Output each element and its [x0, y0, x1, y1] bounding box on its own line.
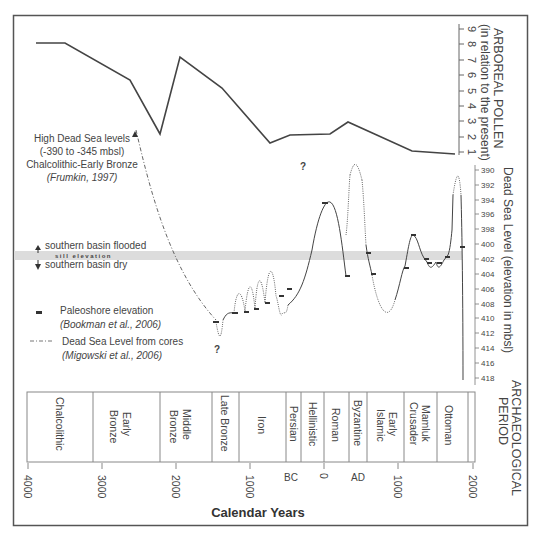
lake-level-axis: [475, 165, 479, 385]
pollen-tick-labels: 9 8 7 6 5 4 3 2 1: [466, 26, 478, 155]
high-levels-annotation: High Dead Sea levels (-390 to -345 mbsl)…: [26, 133, 138, 183]
svg-text:412: 412: [481, 329, 495, 338]
ad-label: AD: [351, 472, 365, 483]
chart-frame: [14, 16, 528, 526]
svg-text:390: 390: [481, 166, 495, 175]
svg-text:2: 2: [466, 134, 478, 140]
lake-level-dotted-segments: [216, 164, 461, 336]
svg-text:(Frumkin, 1997): (Frumkin, 1997): [47, 172, 118, 183]
paleoshore-markers: [213, 202, 465, 323]
svg-text:7: 7: [466, 57, 478, 63]
svg-text:418: 418: [481, 374, 495, 383]
svg-text:Chalcolithic-Early Bronze: Chalcolithic-Early Bronze: [26, 159, 138, 170]
svg-text:(Migowski et al., 2006): (Migowski et al., 2006): [62, 350, 162, 361]
svg-text:3000: 3000: [96, 475, 108, 499]
svg-text:396: 396: [481, 210, 495, 219]
svg-text:8: 8: [466, 41, 478, 47]
svg-text:3: 3: [466, 118, 478, 124]
svg-text:402: 402: [481, 255, 495, 264]
svg-text:9: 9: [466, 26, 478, 32]
svg-text:4000: 4000: [22, 475, 34, 499]
svg-text:406: 406: [481, 285, 495, 294]
svg-text:404: 404: [481, 270, 495, 279]
bc-label: BC: [284, 472, 298, 483]
period-middle-bronze-2: Bronze: [168, 410, 180, 443]
period-axis-title-2: PERIOD: [496, 397, 510, 445]
svg-text:400: 400: [481, 240, 495, 249]
pollen-axis: [459, 24, 464, 155]
paleoshore-legend-swatch: [36, 311, 42, 314]
period-middle-bronze-1: Middle: [181, 409, 193, 440]
period-early-bronze-2: Bronze: [108, 410, 120, 443]
basin-dry-label: southern basin dry: [45, 259, 127, 270]
chart-canvas: sill elevation 9 8 7 6 5 4 3 2 1 ARBOREA…: [0, 0, 541, 539]
svg-text:4: 4: [466, 103, 478, 109]
period-persian: Persian: [288, 406, 300, 442]
question-mark-top: ?: [300, 161, 306, 172]
period-table: [27, 392, 475, 462]
svg-text:Dead Sea Level from cores: Dead Sea Level from cores: [62, 336, 183, 347]
period-chalcolithic: Chalcolithic: [54, 397, 66, 451]
svg-text:6: 6: [466, 72, 478, 78]
period-labels: Chalcolithic Early Bronze Middle Bronze …: [54, 395, 455, 452]
svg-text:394: 394: [481, 196, 495, 205]
period-early-bronze-1: Early: [121, 412, 133, 437]
svg-text:2000: 2000: [170, 475, 182, 499]
arrow-up-icon: [132, 131, 138, 137]
svg-text:2000: 2000: [467, 475, 479, 499]
svg-text:5: 5: [466, 88, 478, 94]
svg-text:408: 408: [481, 300, 495, 309]
basin-flooded-label: southern basin flooded: [45, 240, 146, 251]
period-mamluk: Mamluk: [420, 405, 432, 443]
period-byzantine: Byzantine: [352, 400, 364, 446]
svg-text:398: 398: [481, 225, 495, 234]
arrow-down-icon: [35, 264, 41, 270]
core-level-dashed-line: [136, 130, 216, 320]
period-roman: Roman: [330, 408, 342, 442]
period-ottoman: Ottoman: [443, 405, 455, 445]
pollen-axis-title: ARBOREAL POLLEN: [491, 28, 505, 148]
legend: Paleoshore elevation (Bookman et al., 20…: [30, 305, 183, 361]
period-axis-title-1: ARCHAEOLOGICAL: [509, 380, 523, 496]
period-late-bronze: Late Bronze: [219, 395, 231, 452]
lake-level-tick-labels: 390 392 394 396 398 400 402 404 406 408 …: [481, 166, 495, 383]
period-early-islamic-2: Islamic: [375, 409, 387, 442]
svg-text:1000: 1000: [244, 475, 256, 499]
svg-text:1: 1: [466, 149, 478, 155]
question-mark-bottom: ?: [214, 344, 220, 355]
lake-level-axis-title: Dead Sea Level (elevation in mbsl): [501, 167, 515, 353]
svg-text:High Dead Sea levels: High Dead Sea levels: [34, 133, 130, 144]
pollen-axis-subtitle: (in relation to the present): [478, 24, 492, 161]
x-axis-tick-labels: 4000 3000 2000 1000 0 1000 2000: [22, 473, 479, 499]
period-hellinistic: Hellinistic: [307, 402, 319, 446]
svg-text:0: 0: [318, 473, 330, 479]
svg-text:414: 414: [481, 344, 495, 353]
svg-text:392: 392: [481, 181, 495, 190]
period-early-islamic-1: Early: [387, 412, 399, 437]
svg-text:(Bookman et al., 2006): (Bookman et al., 2006): [60, 319, 161, 330]
lake-level-line: [223, 195, 463, 380]
svg-text:1000: 1000: [392, 475, 404, 499]
x-axis-ticks: [28, 463, 473, 469]
period-iron: Iron: [256, 416, 268, 434]
svg-text:(-390 to -345 mbsl): (-390 to -345 mbsl): [40, 146, 124, 157]
period-crusader: Crusader: [408, 402, 420, 446]
svg-text:410: 410: [481, 314, 495, 323]
x-axis-title: Calendar Years: [211, 505, 305, 520]
svg-text:Paleoshore elevation: Paleoshore elevation: [60, 305, 153, 316]
svg-text:416: 416: [481, 359, 495, 368]
